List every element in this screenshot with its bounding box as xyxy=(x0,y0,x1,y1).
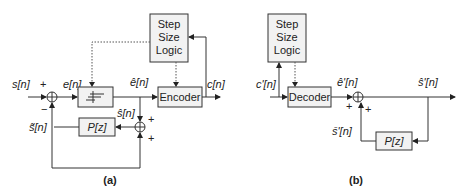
step-size-logic-block-a: Step Size Logic xyxy=(150,14,188,62)
step-size-logic-b-line1: Step xyxy=(276,18,299,30)
prediction-loop-to-summer-2 xyxy=(52,133,140,168)
step-size-logic-line1: Step xyxy=(158,18,181,30)
signal-s-hat-n: ŝ[n] xyxy=(117,107,136,119)
step-size-logic-line2: Size xyxy=(158,31,179,43)
step-size-logic-b-line2: Size xyxy=(276,31,297,43)
encoder-block: Encoder xyxy=(158,87,202,107)
sign-minus-feedback: − xyxy=(41,103,47,115)
signal-e-hat-n: ê[n] xyxy=(130,76,149,88)
signal-s-n: s[n] xyxy=(12,78,31,90)
signal-e-hat-prime-n: ê'[n] xyxy=(337,76,358,88)
step-size-logic-b-line3: Logic xyxy=(274,44,301,56)
output-tap-to-predictor xyxy=(413,97,428,141)
sign-plus-top: + xyxy=(148,113,154,125)
decoder-block: Decoder xyxy=(288,87,331,107)
signal-s-hat-prime-n: ŝ'[n] xyxy=(418,76,439,88)
caption-b: (b) xyxy=(349,174,363,186)
encoder-label: Encoder xyxy=(160,91,201,103)
summing-junction-1 xyxy=(47,92,57,102)
step-size-logic-line3: Logic xyxy=(156,44,183,56)
decoder-label: Decoder xyxy=(289,91,331,103)
signal-c-prime-n: c'[n] xyxy=(256,78,277,90)
sign-plus-right-b: + xyxy=(365,103,371,115)
quantizer-block xyxy=(78,87,113,107)
summing-junction-b xyxy=(353,92,363,102)
adpcm-block-diagram: Step Size Logic s[n] + − e[n] xyxy=(0,0,469,194)
caption-a: (a) xyxy=(103,174,117,186)
summing-junction-2 xyxy=(135,122,145,132)
predictor-label-a: P[z] xyxy=(88,121,108,133)
sign-plus-bottom: + xyxy=(148,132,154,144)
signal-s-bar-prime-n: s̄'[n] xyxy=(332,125,353,137)
step-size-logic-block-b: Step Size Logic xyxy=(268,14,306,62)
signal-s-tilde-n: s̃[n] xyxy=(29,121,48,133)
predictor-label-b: P[z] xyxy=(385,135,405,147)
diagram-b: Step Size Logic c'[n] Decoder ê'[n] + + … xyxy=(256,14,455,186)
diagram-a: Step Size Logic s[n] + − e[n] xyxy=(12,14,226,186)
sign-plus-left-b: + xyxy=(346,100,352,112)
predictor-block-b: P[z] xyxy=(376,132,412,150)
sign-plus-input: + xyxy=(40,78,46,90)
signal-c-n: c[n] xyxy=(207,78,226,90)
predictor-block-a: P[z] xyxy=(79,118,115,136)
